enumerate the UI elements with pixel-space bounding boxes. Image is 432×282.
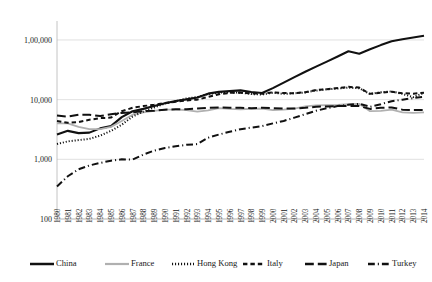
x-axis-tick-label: 2014 <box>421 208 429 223</box>
line-chart: 1,00,00010,0001,000100198019811982198319… <box>0 0 432 282</box>
x-axis-tick-label: 1996 <box>227 208 235 223</box>
x-axis-tick-label: 2009 <box>367 208 375 223</box>
x-axis-tick-label: 1984 <box>97 208 105 223</box>
x-axis-tick-label: 2005 <box>324 208 332 223</box>
x-axis-tick-label: 1985 <box>108 208 116 223</box>
x-axis-tick-label: 1988 <box>140 208 148 223</box>
legend-label-japan: Japan <box>329 258 349 268</box>
x-axis-tick-label: 2011 <box>389 208 397 223</box>
x-axis-tick-label: 1998 <box>248 208 256 223</box>
x-axis-tick-label: 2004 <box>313 208 321 223</box>
x-axis-tick-label: 2007 <box>345 208 353 223</box>
x-axis-tick-label: 1980 <box>54 208 62 223</box>
series-line-hong-kong <box>57 88 424 144</box>
chart-container: 1,00,00010,0001,000100198019811982198319… <box>0 0 432 282</box>
x-axis-tick-label: 1992 <box>184 208 192 223</box>
series-line-italy <box>57 87 424 123</box>
x-axis-tick-label: 1982 <box>76 208 84 223</box>
y-axis-tick-label: 1,00,000 <box>24 36 52 45</box>
y-axis-tick-label: 100 <box>40 215 52 224</box>
x-axis-tick-label: 2003 <box>302 208 310 223</box>
x-axis-tick-label: 1993 <box>194 208 202 223</box>
x-axis-tick-label: 1981 <box>65 208 73 223</box>
x-axis-tick-label: 2013 <box>410 208 418 223</box>
x-axis-tick-label: 2010 <box>378 208 386 223</box>
x-axis-tick-label: 2006 <box>335 208 343 223</box>
x-axis-tick-label: 2008 <box>356 208 364 223</box>
x-axis-tick-label: 2002 <box>291 208 299 223</box>
x-axis-tick-label: 1997 <box>238 208 246 223</box>
x-axis-tick-label: 1999 <box>259 208 267 223</box>
legend-label-china: China <box>56 258 77 268</box>
x-axis-tick-label: 1995 <box>216 208 224 223</box>
x-axis-tick-label: 1989 <box>151 208 159 223</box>
y-axis-tick-label: 10,000 <box>30 96 52 105</box>
x-axis-tick-label: 2000 <box>270 208 278 223</box>
series-line-china <box>57 36 424 135</box>
legend-label-italy: Italy <box>267 258 283 268</box>
legend-label-turkey: Turkey <box>392 258 417 268</box>
x-axis-tick-label: 1986 <box>119 208 127 223</box>
x-axis-tick-label: 1983 <box>86 208 94 223</box>
x-axis-tick-label: 1990 <box>162 208 170 223</box>
x-axis-tick-label: 2001 <box>281 208 289 223</box>
x-axis-tick-label: 1994 <box>205 208 213 223</box>
x-axis-tick-label: 2012 <box>399 208 407 223</box>
legend-label-hong-kong: Hong Kong <box>197 258 238 268</box>
x-axis-tick-label: 1991 <box>173 208 181 223</box>
legend-label-france: France <box>131 258 155 268</box>
x-axis-tick-label: 1987 <box>130 208 138 223</box>
y-axis-tick-label: 1,000 <box>34 155 52 164</box>
